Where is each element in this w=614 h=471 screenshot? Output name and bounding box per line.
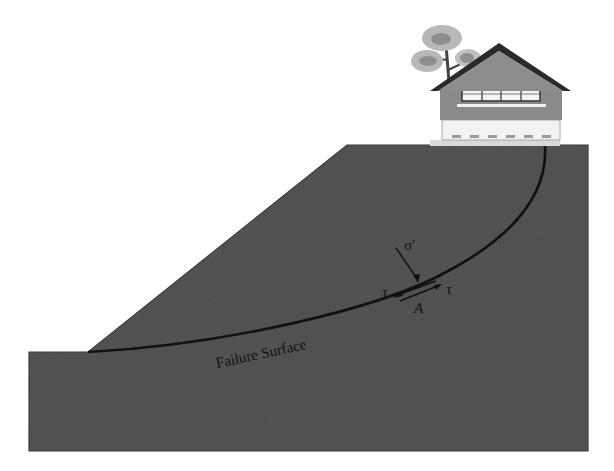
diagram-canvas: σ′ τ τ A Failure Surface bbox=[0, 0, 614, 471]
slope-stability-diagram: σ′ τ τ A Failure Surface bbox=[0, 0, 614, 471]
soil-body bbox=[29, 145, 588, 451]
shear-stress-right-label: τ bbox=[446, 281, 452, 297]
point-A-label: A bbox=[413, 300, 424, 316]
shear-stress-left-label: τ bbox=[382, 284, 388, 300]
normal-stress-label: σ′ bbox=[404, 237, 415, 253]
house-icon bbox=[430, 43, 571, 146]
